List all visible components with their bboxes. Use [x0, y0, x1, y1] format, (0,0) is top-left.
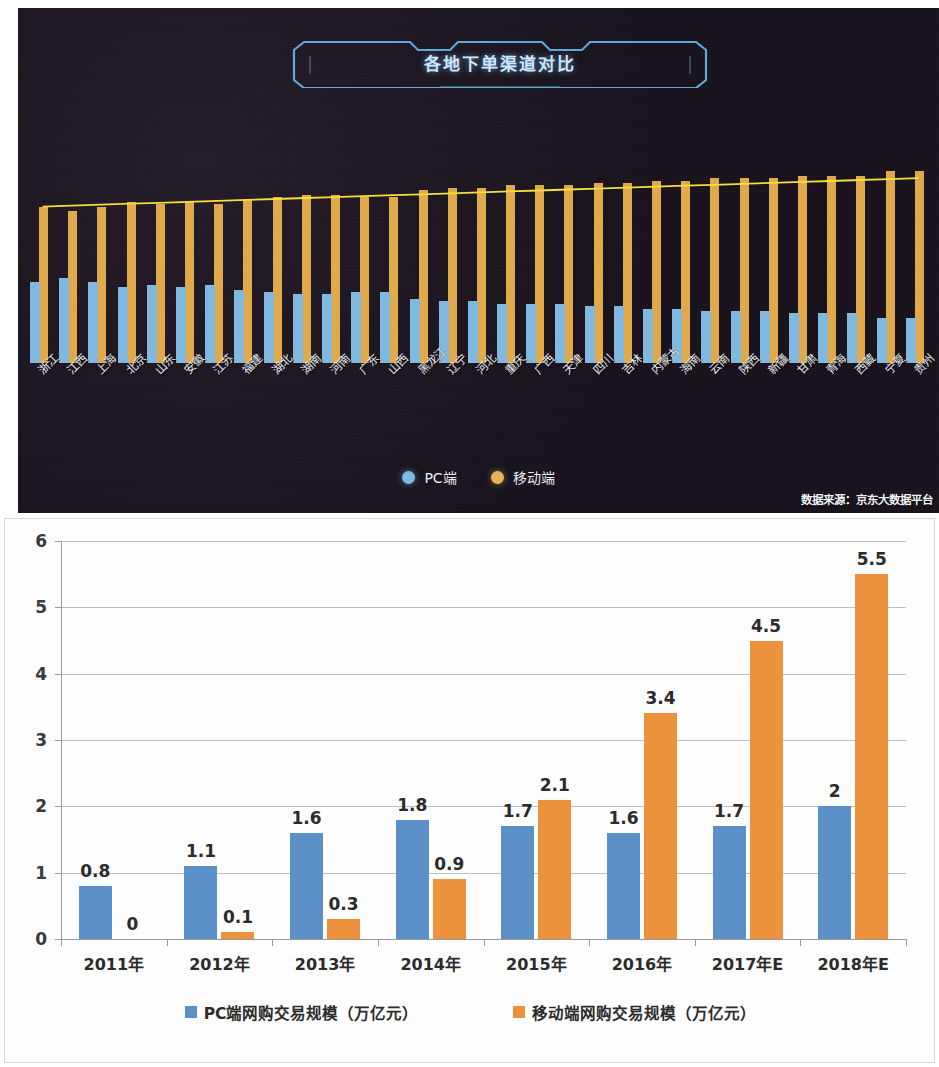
bar-mobile	[156, 204, 165, 363]
bar-mobile-transaction	[855, 574, 888, 939]
bar-mobile	[477, 188, 486, 363]
bar-value-label-mobile: 4.5	[742, 616, 791, 636]
bar-pc	[176, 287, 186, 363]
bottom-chart-panel: PC端网购交易规模（万亿元） 移动端网购交易规模（万亿元） 01234560.8…	[4, 518, 935, 1063]
bar-mobile	[827, 176, 836, 363]
bar-value-label-pc: 0.8	[71, 861, 120, 881]
bar-value-label-mobile: 0.9	[425, 854, 474, 874]
bar-mobile	[564, 185, 573, 363]
bar-pc	[847, 313, 857, 363]
bar-mobile	[710, 178, 719, 363]
legend-label-mobile: 移动端	[513, 467, 555, 487]
x-axis-tick-label: 2015年	[481, 951, 591, 975]
y-axis-tick-label: 4	[13, 664, 47, 684]
bar-pc	[410, 299, 420, 363]
bar-pc	[760, 311, 770, 363]
x-axis-tick-mark	[484, 939, 485, 946]
bar-mobile	[389, 197, 398, 363]
bar-mobile	[594, 183, 603, 363]
x-axis-tick-mark	[800, 939, 801, 946]
legend-dot-mobile-icon	[491, 471, 504, 484]
bar-pc	[380, 292, 390, 363]
bar-mobile	[331, 195, 340, 363]
bar-value-label-mobile: 5.5	[847, 549, 896, 569]
bar-mobile	[68, 211, 77, 363]
x-axis-tick-mark	[695, 939, 696, 946]
bar-mobile	[214, 204, 223, 363]
bar-pc	[526, 304, 536, 363]
bar-pc	[731, 311, 741, 363]
data-source-note: 数据来源：京东大数据平台	[801, 491, 933, 507]
year-bar-group	[61, 541, 906, 939]
y-axis-tick-mark	[55, 674, 61, 675]
x-axis-tick-label: 2012年	[164, 951, 274, 975]
bar-pc-transaction	[818, 806, 851, 939]
bar-value-label-pc: 1.6	[599, 808, 648, 828]
bar-value-label-pc: 1.6	[282, 808, 331, 828]
bar-pc	[585, 306, 595, 363]
y-axis-tick-mark	[55, 607, 61, 608]
bar-mobile	[681, 181, 690, 363]
y-axis-tick-mark	[55, 541, 61, 542]
bar-value-label-pc: 1.7	[493, 801, 542, 821]
x-axis-tick-mark	[589, 939, 590, 946]
y-axis-tick-label: 3	[13, 730, 47, 750]
bar-mobile	[97, 207, 106, 363]
bar-value-label-mobile: 2.1	[530, 775, 579, 795]
x-axis-tick-mark	[167, 939, 168, 946]
y-axis-tick-label: 5	[13, 597, 47, 617]
bar-pc	[614, 306, 624, 363]
bar-pc	[555, 304, 565, 363]
top-chart-x-axis-labels: 浙江江西上海北京山东安徽江苏福建湖北湖南河南广东山西黑龙江辽宁河北重庆广西天津四…	[28, 364, 933, 436]
page-title: 各地下单渠道对比	[290, 36, 710, 88]
bar-pc	[351, 292, 361, 363]
x-axis-tick-label: 2017年E	[693, 951, 803, 975]
bar-pc	[30, 282, 40, 363]
legend-label-mobile-scale: 移动端网购交易规模（万亿元）	[532, 1001, 756, 1023]
bar-value-label-pc: 1.8	[388, 795, 437, 815]
y-axis-tick-mark	[55, 806, 61, 807]
x-axis-tick-label: 2016年	[587, 951, 697, 975]
title-frame: 各地下单渠道对比	[290, 36, 710, 88]
legend-item-pc: PC端	[402, 467, 456, 487]
bar-mobile	[243, 199, 252, 363]
legend-label-pc: PC端	[424, 467, 456, 487]
legend-label-pc-scale: PC端网购交易规模（万亿元）	[204, 1001, 419, 1023]
bar-value-label-mobile: 0.1	[213, 907, 262, 927]
bar-pc	[789, 313, 799, 363]
bar-mobile	[623, 183, 632, 363]
bar-pc	[234, 290, 244, 363]
y-axis-line	[61, 541, 62, 940]
bar-mobile	[273, 197, 282, 363]
bar-pc	[643, 309, 653, 364]
bar-mobile	[127, 202, 136, 363]
bar-mobile	[769, 178, 778, 363]
top-chart-panel: 各地下单渠道对比 浙江江西上海北京山东安徽江苏福建湖北湖南河南广东山西黑龙江辽宁…	[18, 8, 939, 513]
bar-mobile	[419, 190, 428, 363]
legend-item-mobile-scale: 移动端网购交易规模（万亿元）	[513, 1001, 756, 1023]
bar-mobile	[448, 188, 457, 363]
bar-pc	[906, 318, 916, 363]
bar-pc	[322, 294, 332, 363]
y-axis-tick-label: 0	[13, 929, 47, 949]
bar-mobile	[360, 197, 369, 363]
bar-value-label-mobile: 3.4	[636, 688, 685, 708]
bar-pc	[205, 285, 215, 363]
bar-mobile	[652, 181, 661, 363]
top-chart-plot-area	[28, 126, 933, 363]
legend-dot-pc-icon	[402, 471, 415, 484]
bar-mobile	[185, 202, 194, 363]
legend-item-pc-scale: PC端网购交易规模（万亿元）	[185, 1001, 419, 1023]
bar-value-label-pc: 1.7	[705, 801, 754, 821]
bar-mobile	[39, 207, 48, 363]
y-axis-tick-label: 2	[13, 796, 47, 816]
bar-pc	[147, 285, 157, 363]
bar-pc	[497, 304, 507, 363]
bar-value-label-mobile: 0.3	[319, 894, 368, 914]
x-axis-tick-mark	[378, 939, 379, 946]
bar-pc	[264, 292, 274, 363]
bar-mobile	[740, 178, 749, 363]
x-axis-tick-label: 2013年	[270, 951, 380, 975]
y-axis-tick-label: 1	[13, 863, 47, 883]
y-axis-tick-mark	[55, 873, 61, 874]
